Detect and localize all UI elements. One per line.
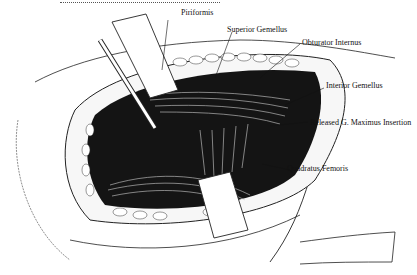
label-quadratus-femoris: Quadratus Femoris bbox=[287, 164, 348, 173]
label-superior-gemellus: Superior Gemellus bbox=[227, 25, 287, 34]
label-piriformis: Piriformis bbox=[181, 8, 213, 17]
leg-outline bbox=[300, 232, 395, 264]
thigh-outline bbox=[16, 120, 70, 260]
label-inferior-gemellus: Interior Gemellus bbox=[326, 81, 383, 90]
label-obturator-internus: Obturator Internus bbox=[302, 38, 361, 47]
label-released-g-maximus-insertion: Released G. Maximus Insertion bbox=[310, 118, 411, 127]
